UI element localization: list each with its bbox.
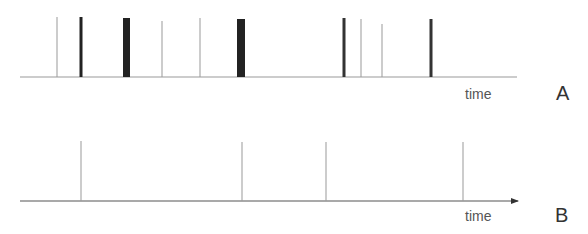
spike-b-2 [242, 142, 243, 201]
spike-a-7 [343, 18, 346, 77]
spike-b-4 [463, 142, 464, 201]
panel-a-axis-label: time [465, 86, 492, 102]
spike-a-5 [200, 18, 201, 77]
spike-a-6 [237, 19, 245, 77]
panel-b-label: B [555, 204, 568, 226]
spike-b-3 [326, 142, 327, 201]
panel-a-spikes [57, 17, 433, 77]
spike-b-1 [81, 141, 82, 201]
spike-a-10 [430, 19, 433, 77]
spike-a-3 [123, 18, 130, 77]
panel-b-spike-train: time B [20, 141, 568, 226]
spike-a-2 [80, 17, 83, 77]
spike-a-9 [382, 24, 383, 77]
panel-a-spike-train: time A [20, 17, 570, 104]
spike-a-4 [162, 21, 163, 77]
panel-a-label: A [556, 82, 570, 104]
panel-b-spikes [81, 141, 464, 201]
panel-b-axis-label: time [465, 208, 492, 224]
spike-train-diagram: time A time B [0, 0, 588, 234]
spike-a-1 [57, 17, 58, 77]
spike-a-8 [361, 19, 362, 77]
